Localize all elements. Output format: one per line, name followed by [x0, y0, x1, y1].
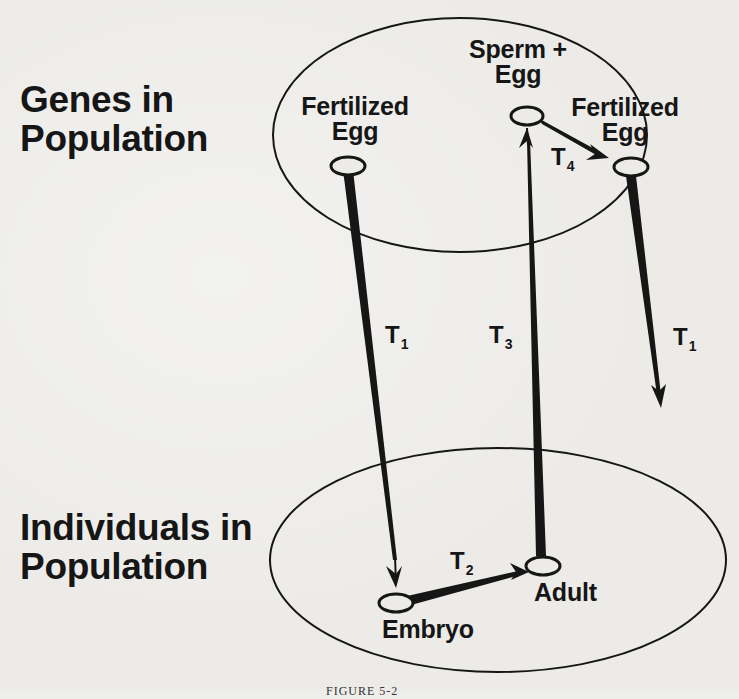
- t3-letter: T: [489, 321, 504, 348]
- t3-label: T3: [489, 323, 512, 350]
- genes-label-line1: Genes in: [20, 80, 208, 119]
- individuals-label-line2: Population: [20, 547, 252, 586]
- genes-label-line2: Population: [20, 119, 208, 158]
- figure-caption: FIGURE 5-2: [326, 684, 398, 699]
- sperm-egg-label: Sperm + Egg: [458, 37, 578, 87]
- adult-label: Adult: [534, 580, 597, 605]
- fertilized-egg-left-label: Fertilized Egg: [298, 94, 412, 144]
- genes-in-population-label: Genes in Population: [20, 80, 208, 158]
- t1-right-label: T1: [673, 325, 696, 352]
- individuals-label-line1: Individuals in: [20, 508, 252, 547]
- fertilized-egg-right-label: Fertilized Egg: [568, 95, 682, 145]
- individuals-in-population-label: Individuals in Population: [20, 508, 252, 586]
- fertilized-egg-left-line1: Fertilized: [298, 94, 412, 119]
- embryo-label: Embryo: [382, 617, 474, 642]
- sperm-egg-line1: Sperm +: [458, 37, 578, 62]
- t3-subscript: 3: [505, 336, 513, 352]
- t1-left-letter: T: [385, 321, 400, 348]
- t2-letter: T: [450, 547, 465, 574]
- fertilized-egg-left-node: [331, 157, 365, 175]
- embryo-node: [379, 594, 413, 612]
- t4-label: T4: [551, 145, 574, 172]
- fertilized-egg-right-line2: Egg: [568, 120, 682, 145]
- sperm-egg-line2: Egg: [458, 62, 578, 87]
- individuals-population-ellipse: [270, 448, 726, 672]
- sperm-egg-node: [511, 107, 543, 125]
- fertilized-egg-left-line2: Egg: [298, 119, 412, 144]
- t1-right-letter: T: [673, 323, 688, 350]
- arrow-t1-left: [343, 170, 402, 588]
- arrow-t3: [519, 128, 546, 556]
- fertilized-egg-right-line1: Fertilized: [568, 95, 682, 120]
- fertilized-egg-right-node: [614, 158, 648, 176]
- t1-left-label: T1: [385, 323, 408, 350]
- t4-subscript: 4: [567, 158, 575, 174]
- t4-letter: T: [551, 143, 566, 170]
- t1-left-subscript: 1: [401, 336, 409, 352]
- t1-right-subscript: 1: [689, 338, 697, 354]
- t2-subscript: 2: [466, 562, 474, 578]
- adult-node: [526, 557, 560, 575]
- arrow-t1-right: [626, 176, 666, 408]
- t2-label: T2: [450, 549, 473, 576]
